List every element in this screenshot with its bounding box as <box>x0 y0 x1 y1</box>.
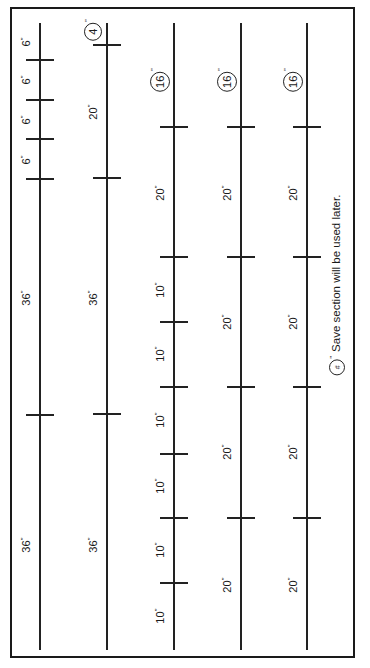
length-label: 10" <box>154 282 166 297</box>
cut-mark <box>26 178 54 180</box>
inch-mark: " <box>287 577 294 580</box>
inch-mark: " <box>287 314 294 317</box>
inch-mark: " <box>217 68 224 71</box>
inch-mark: " <box>221 577 228 580</box>
length-label: 20" <box>87 104 99 119</box>
length-label: 6" <box>20 75 32 84</box>
length-label: 10" <box>154 346 166 361</box>
cut-mark <box>160 582 188 584</box>
length-label: 20" <box>221 444 233 459</box>
saved-section-label: 16" <box>150 68 170 92</box>
length-value: 20 <box>287 317 299 329</box>
length-label: 36" <box>20 537 32 552</box>
length-label: 10" <box>154 542 166 557</box>
inch-mark: " <box>87 290 94 293</box>
length-label: 6" <box>20 155 32 164</box>
length-value: 10 <box>154 349 166 361</box>
length-label: 10" <box>154 608 166 623</box>
saved-section-label: 4" <box>84 19 102 41</box>
length-label: 20" <box>287 577 299 592</box>
length-label: 20" <box>154 185 166 200</box>
cut-mark <box>160 321 188 323</box>
inch-mark: " <box>283 68 290 71</box>
diagram-frame <box>10 7 355 658</box>
length-value: 10 <box>154 481 166 493</box>
inch-mark: " <box>154 185 161 188</box>
cut-mark <box>293 517 321 519</box>
length-value: 20 <box>87 107 99 119</box>
length-label: 20" <box>287 314 299 329</box>
length-label: 20" <box>221 577 233 592</box>
inch-mark: " <box>221 185 228 188</box>
length-label: 20" <box>287 185 299 200</box>
cut-mark <box>293 126 321 128</box>
circle-marker: 16 <box>150 72 170 92</box>
cut-mark <box>227 126 255 128</box>
inch-mark: " <box>87 104 94 107</box>
length-value: 20 <box>221 447 233 459</box>
length-value: 36 <box>20 293 32 305</box>
length-label: 36" <box>87 537 99 552</box>
length-value: 6 <box>20 158 32 164</box>
circle-marker: 4 <box>84 23 102 41</box>
cut-mark <box>293 256 321 258</box>
inch-mark: " <box>287 185 294 188</box>
inch-mark: " <box>221 444 228 447</box>
board-5-line <box>306 23 308 650</box>
length-value: 20 <box>221 317 233 329</box>
length-label: 20" <box>221 185 233 200</box>
length-label: 20" <box>287 444 299 459</box>
length-label: 36" <box>20 290 32 305</box>
inch-mark: " <box>154 346 161 349</box>
length-label: 10" <box>154 478 166 493</box>
inch-mark: " <box>287 444 294 447</box>
inch-mark: " <box>329 356 336 359</box>
board-2-line <box>106 23 108 650</box>
cut-mark <box>93 413 121 415</box>
length-value: 10 <box>154 415 166 427</box>
length-value: 36 <box>20 540 32 552</box>
cut-mark <box>160 256 188 258</box>
inch-mark: " <box>20 290 27 293</box>
length-value: 36 <box>87 293 99 305</box>
inch-mark: " <box>154 542 161 545</box>
inch-mark: " <box>154 478 161 481</box>
length-value: 6 <box>20 118 32 124</box>
cut-mark <box>227 256 255 258</box>
legend-note: # " Save section will be used later. <box>329 195 345 376</box>
circle-marker: 16 <box>217 72 237 92</box>
length-value: 20 <box>287 447 299 459</box>
cut-mark <box>293 386 321 388</box>
saved-section-label: 16" <box>217 68 237 92</box>
cut-mark <box>26 138 54 140</box>
legend-text: Save section will be used later. <box>331 195 343 352</box>
length-value: 20 <box>154 188 166 200</box>
length-label: 20" <box>221 314 233 329</box>
cut-mark <box>93 177 121 179</box>
length-value: 20 <box>287 580 299 592</box>
length-value: 10 <box>154 545 166 557</box>
cut-mark <box>160 453 188 455</box>
length-value: 20 <box>221 580 233 592</box>
inch-mark: " <box>154 282 161 285</box>
inch-mark: " <box>150 68 157 71</box>
length-value: 6 <box>20 78 32 84</box>
board-1-line <box>39 23 41 650</box>
inch-mark: " <box>87 537 94 540</box>
length-value: 6 <box>20 40 32 46</box>
length-value: 10 <box>154 285 166 297</box>
inch-mark: " <box>20 537 27 540</box>
length-value: 20 <box>221 188 233 200</box>
length-value: 10 <box>154 611 166 623</box>
inch-mark: " <box>221 314 228 317</box>
inch-mark: " <box>154 412 161 415</box>
saved-section-label: 16" <box>283 68 303 92</box>
inch-mark: " <box>84 19 91 22</box>
length-value: 20 <box>287 188 299 200</box>
board-4-line <box>240 23 242 650</box>
cut-mark <box>227 386 255 388</box>
cut-mark <box>93 44 121 46</box>
cut-mark <box>160 126 188 128</box>
length-value: 36 <box>87 540 99 552</box>
cut-mark <box>160 517 188 519</box>
